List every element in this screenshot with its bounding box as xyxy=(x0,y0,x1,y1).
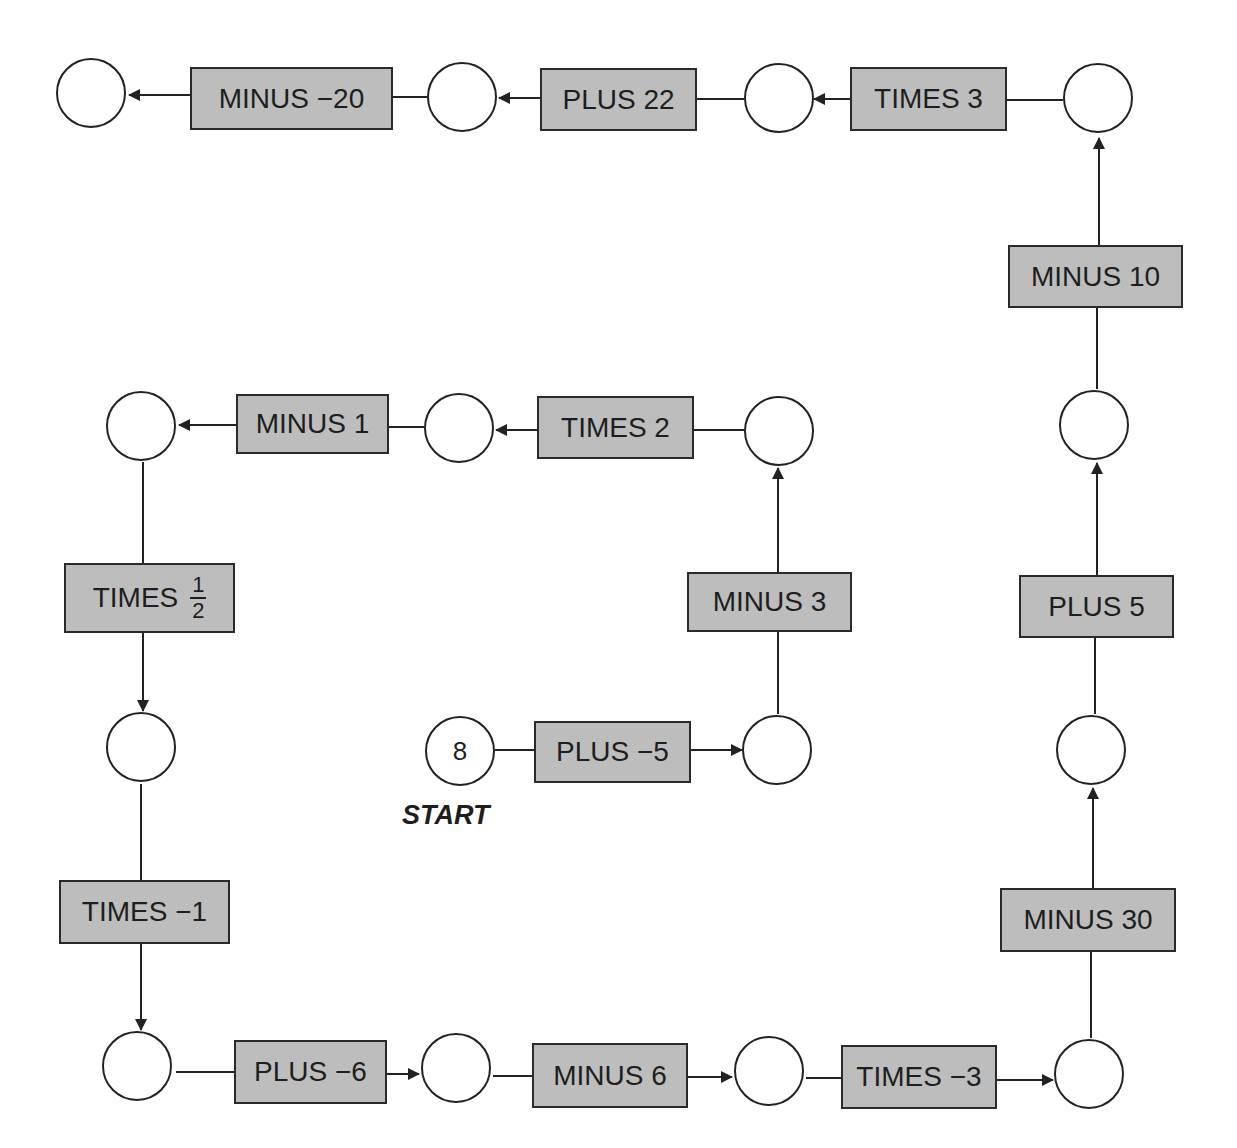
answer-node-13[interactable] xyxy=(744,63,814,133)
operation-times-neg1: TIMES −1 xyxy=(59,880,230,944)
operation-plus-neg5: PLUS −5 xyxy=(534,721,691,783)
operation-minus-30: MINUS 30 xyxy=(1000,888,1176,952)
answer-node-9[interactable] xyxy=(1054,1039,1124,1109)
fraction-one-half: 1 2 xyxy=(190,574,206,622)
operation-minus-6: MINUS 6 xyxy=(532,1043,688,1108)
fraction-numerator: 1 xyxy=(192,574,204,596)
fraction-denominator: 2 xyxy=(192,600,204,622)
answer-node-10[interactable] xyxy=(1056,715,1126,785)
answer-node-3[interactable] xyxy=(424,393,494,463)
start-node: 8 xyxy=(425,716,495,786)
operation-times-half-label: TIMES xyxy=(93,582,179,614)
operation-plus-5: PLUS 5 xyxy=(1019,575,1174,638)
answer-node-11[interactable] xyxy=(1059,390,1129,460)
operation-times-3: TIMES 3 xyxy=(850,67,1007,131)
answer-node-7[interactable] xyxy=(421,1033,491,1103)
answer-node-8[interactable] xyxy=(734,1036,804,1106)
operation-times-half: TIMES 1 2 xyxy=(64,563,235,633)
operation-minus-10: MINUS 10 xyxy=(1008,245,1183,308)
answer-node-5[interactable] xyxy=(106,712,176,782)
operation-minus-3: MINUS 3 xyxy=(687,572,852,632)
start-label: START xyxy=(402,800,490,831)
answer-node-4[interactable] xyxy=(106,391,176,461)
answer-node-1[interactable] xyxy=(742,715,812,785)
operation-minus-1: MINUS 1 xyxy=(236,394,389,454)
answer-node-2[interactable] xyxy=(744,396,814,466)
number-chain-diagram: 8 START PLUS −5 MINUS 3 TIMES 2 MINUS 1 … xyxy=(0,0,1237,1148)
operation-minus-neg20: MINUS −20 xyxy=(190,67,393,130)
operation-times-neg3: TIMES −3 xyxy=(841,1045,997,1109)
answer-node-14[interactable] xyxy=(427,62,497,132)
answer-node-6[interactable] xyxy=(102,1031,172,1101)
answer-node-15[interactable] xyxy=(56,58,126,128)
operation-times-2: TIMES 2 xyxy=(537,396,694,459)
answer-node-12[interactable] xyxy=(1063,63,1133,133)
operation-plus-neg6: PLUS −6 xyxy=(234,1040,387,1104)
operation-plus-22: PLUS 22 xyxy=(540,68,697,131)
